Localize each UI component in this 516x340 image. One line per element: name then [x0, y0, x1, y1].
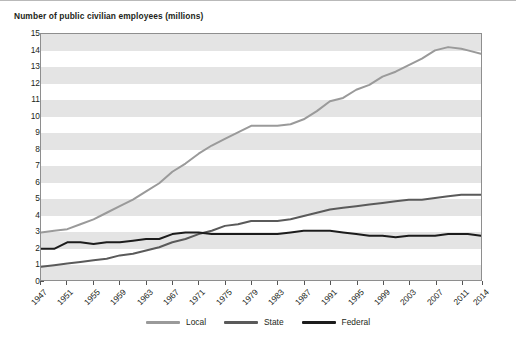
y-axis-tick-label: 12 [10, 78, 40, 88]
y-axis-tick-label: 10 [10, 111, 40, 121]
x-axis-tick-label: 2007 [419, 287, 444, 312]
legend-swatch-icon [224, 321, 258, 324]
x-axis-tick [277, 281, 278, 285]
y-axis-tick-label: 5 [10, 193, 40, 203]
legend-swatch-icon [302, 321, 336, 324]
x-axis-tick-label: 2011 [446, 287, 471, 312]
series-layer [41, 34, 481, 280]
x-axis-tick [119, 281, 120, 285]
legend-item-federal[interactable]: Federal [302, 317, 370, 327]
y-axis-tick-label: 3 [10, 226, 40, 236]
y-axis-tick-label: 11 [10, 94, 40, 104]
y-axis-tick-label: 9 [10, 127, 40, 137]
x-axis-tick-label: 2014 [466, 287, 491, 312]
y-axis-tick-label: 15 [10, 28, 40, 38]
x-axis-tick-label: 1951 [50, 287, 75, 312]
y-axis-tick-label: 8 [10, 144, 40, 154]
x-axis-tick-label: 1983 [261, 287, 286, 312]
y-axis-tick-label: 6 [10, 177, 40, 187]
x-axis-tick-label: 1987 [287, 287, 312, 312]
y-axis-tick-label: 4 [10, 210, 40, 220]
series-line-federal [41, 231, 481, 249]
x-axis-tick-label: 1999 [367, 287, 392, 312]
x-axis-tick-label: 1975 [208, 287, 233, 312]
x-axis-tick [383, 281, 384, 285]
chart-title: Number of public civilian employees (mil… [14, 11, 203, 21]
x-axis-tick-label: 2003 [393, 287, 418, 312]
y-axis-tick-label: 7 [10, 160, 40, 170]
legend-label: Federal [342, 317, 370, 327]
y-axis-tick-label: 1 [10, 259, 40, 269]
x-axis-tick [304, 281, 305, 285]
legend-item-state[interactable]: State [224, 317, 284, 327]
x-axis-tick [225, 281, 226, 285]
y-axis-tick-label: 2 [10, 243, 40, 253]
x-axis-tick [66, 281, 67, 285]
plot-wrapper [40, 33, 482, 281]
legend-item-local[interactable]: Local [146, 317, 206, 327]
x-axis-tick [436, 281, 437, 285]
legend-label: State [264, 317, 284, 327]
x-axis-tick-label: 1991 [314, 287, 339, 312]
y-axis-tick-label: 13 [10, 61, 40, 71]
chart-legend: LocalStateFederal [0, 317, 516, 327]
legend-label: Local [186, 317, 206, 327]
y-axis-labels: 0123456789101112131415 [0, 33, 40, 281]
x-axis-tick [40, 281, 41, 285]
x-axis-tick [357, 281, 358, 285]
chart-figure: Number of public civilian employees (mil… [0, 0, 516, 340]
legend-swatch-icon [146, 321, 180, 324]
x-axis-tick-label: 1959 [103, 287, 128, 312]
x-axis-tick-label: 1967 [156, 287, 181, 312]
x-axis-tick-label: 1955 [76, 287, 101, 312]
x-axis-tick [251, 281, 252, 285]
plot-area [40, 33, 482, 281]
x-axis-tick-label: 1971 [182, 287, 207, 312]
x-axis-tick-label: 1947 [24, 287, 49, 312]
x-axis-tick [93, 281, 94, 285]
x-axis-tick-label: 1963 [129, 287, 154, 312]
y-axis-tick-label: 0 [10, 276, 40, 286]
x-axis-tick [409, 281, 410, 285]
x-axis-tick [482, 281, 483, 285]
series-line-local [41, 47, 481, 232]
x-axis-tick [198, 281, 199, 285]
x-axis-tick [172, 281, 173, 285]
x-axis-tick [330, 281, 331, 285]
x-axis-tick-label: 1979 [235, 287, 260, 312]
y-axis-tick-label: 14 [10, 45, 40, 55]
x-axis-tick-label: 1995 [340, 287, 365, 312]
series-line-state [41, 195, 481, 267]
x-axis-tick [462, 281, 463, 285]
x-axis-tick [146, 281, 147, 285]
